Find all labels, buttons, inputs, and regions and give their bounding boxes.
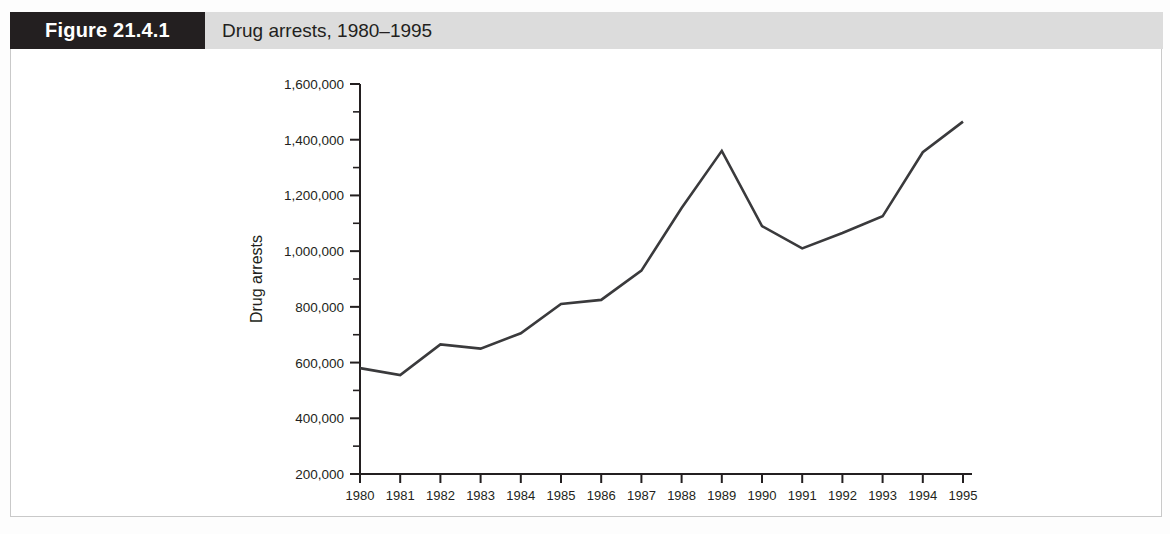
- y-axis-title-text: Drug arrests: [248, 235, 265, 323]
- figure-root: Figure 21.4.1 Drug arrests, 1980–1995 20…: [0, 0, 1170, 534]
- y-tick-label: 400,000: [295, 411, 344, 426]
- y-tick-label: 1,200,000: [284, 188, 344, 203]
- x-axis: 1980198119821983198419851986198719881989…: [346, 474, 978, 503]
- line-chart: 200,000400,000600,000800,0001,000,0001,2…: [10, 49, 1162, 517]
- x-tick-label: 1993: [868, 488, 897, 503]
- chart-plot-area: 200,000400,000600,000800,0001,000,0001,2…: [10, 49, 1162, 517]
- y-tick-label: 600,000: [295, 356, 344, 371]
- y-axis-title: Drug arrests: [248, 235, 265, 323]
- figure-header: Figure 21.4.1 Drug arrests, 1980–1995: [10, 12, 1163, 49]
- figure-caption: Drug arrests, 1980–1995: [222, 12, 432, 49]
- x-tick-label: 1983: [466, 488, 495, 503]
- x-tick-label: 1985: [547, 488, 576, 503]
- x-tick-label: 1986: [587, 488, 616, 503]
- y-tick-label: 1,000,000: [284, 244, 344, 259]
- y-tick-label: 1,400,000: [284, 133, 344, 148]
- series-drug-arrests: [360, 122, 963, 375]
- x-tick-label: 1981: [386, 488, 415, 503]
- y-tick-label: 1,600,000: [284, 77, 344, 92]
- x-tick-label: 1984: [506, 488, 535, 503]
- x-tick-label: 1989: [707, 488, 736, 503]
- x-tick-label: 1987: [627, 488, 656, 503]
- x-tick-label: 1990: [748, 488, 777, 503]
- y-axis: 200,000400,000600,000800,0001,000,0001,2…: [284, 77, 360, 482]
- x-tick-label: 1988: [667, 488, 696, 503]
- figure-number-label: Figure 21.4.1: [45, 19, 170, 42]
- x-tick-label: 1991: [788, 488, 817, 503]
- y-tick-label: 800,000: [295, 300, 344, 315]
- x-tick-label: 1994: [908, 488, 937, 503]
- x-tick-label: 1995: [949, 488, 978, 503]
- x-tick-label: 1980: [346, 488, 375, 503]
- y-tick-label: 200,000: [295, 467, 344, 482]
- x-tick-label: 1982: [426, 488, 455, 503]
- x-tick-label: 1992: [828, 488, 857, 503]
- figure-number-box: Figure 21.4.1: [10, 12, 205, 49]
